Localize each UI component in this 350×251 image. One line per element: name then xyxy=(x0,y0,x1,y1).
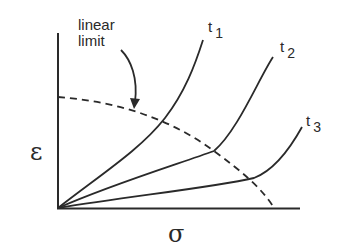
curve-label-t2-name: t xyxy=(280,38,284,55)
curve-label-t1-sub: 1 xyxy=(215,25,223,41)
curve-label-t1: t1 xyxy=(208,18,223,35)
y-axis-label: ε xyxy=(30,138,42,166)
x-axis-label: σ xyxy=(168,220,184,248)
annotation-line-2: limit xyxy=(78,33,115,49)
curve-t2 xyxy=(58,57,273,208)
curve-label-t2: t2 xyxy=(280,38,295,55)
annotation-line-1: linear xyxy=(78,17,115,33)
annotation-arrow-line xyxy=(121,50,136,102)
curve-label-t1-name: t xyxy=(208,18,212,35)
curve-label-t2-sub: 2 xyxy=(287,45,295,61)
arrowhead-icon xyxy=(130,98,140,109)
linear-limit-annotation: linear limit xyxy=(78,17,115,49)
curve-label-t3: t3 xyxy=(306,112,321,129)
curve-t3 xyxy=(58,127,302,208)
curve-label-t3-sub: 3 xyxy=(313,119,321,135)
curve-label-t3-name: t xyxy=(306,112,310,129)
strain-stress-diagram xyxy=(0,0,350,251)
